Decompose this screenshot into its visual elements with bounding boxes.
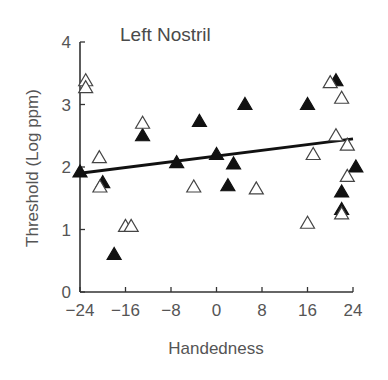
y-tick-label: 0 [62,283,71,302]
x-tick-label: −24 [66,301,95,320]
open-triangle-marker [301,216,315,228]
open-triangle-marker [249,182,263,194]
filled-triangle-marker [210,148,224,160]
open-triangle-marker [92,151,106,163]
x-tick-label: 0 [212,301,221,320]
filled-triangle-marker [107,248,121,260]
scatter-chart: Left Nostril −24−16−808162401234 Handedn… [0,0,388,380]
x-tick-label: −8 [161,301,180,320]
chart-title: Left Nostril [120,24,211,45]
filled-triangle-marker [192,114,206,126]
filled-triangle-marker [301,98,315,110]
filled-triangle-marker [335,185,349,197]
filled-triangle-marker [238,98,252,110]
filled-triangle-marker [349,160,363,172]
open-triangle-marker [136,116,150,128]
open-triangle-marker [335,91,349,103]
x-axis-label: Handedness [168,339,263,358]
open-triangle-marker [306,148,320,160]
y-tick-label: 1 [62,221,71,240]
y-tick-label: 4 [62,33,71,52]
y-tick-label: 2 [62,158,71,177]
filled-triangle-marker [136,129,150,141]
open-triangle-marker [187,180,201,192]
x-tick-label: −16 [111,301,140,320]
tick-labels: −24−16−808162401234 [62,33,363,320]
x-tick-label: 8 [257,301,266,320]
x-tick-label: 16 [298,301,317,320]
x-tick-label: 24 [344,301,363,320]
y-axis-label: Threshold (Log ppm) [23,89,42,247]
y-tick-label: 3 [62,96,71,115]
filled-triangle-marker [227,157,241,169]
filled-triangle-marker [221,179,235,191]
data-points [73,74,363,260]
open-triangle-marker [329,129,343,141]
